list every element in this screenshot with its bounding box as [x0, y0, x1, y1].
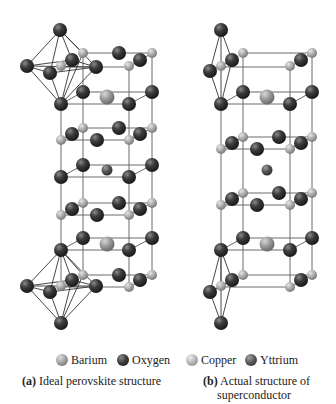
crystal-structure-diagram — [0, 0, 336, 345]
legend-item-barium: Barium — [56, 352, 107, 368]
caption-b: (b) Actual structure of superconductor — [203, 374, 310, 402]
legend-label-yttrium: Yttrium — [260, 353, 298, 368]
caption-a: (a) Ideal perovskite structure — [22, 374, 161, 388]
structure-a-ideal-perovskite — [20, 23, 159, 330]
legend-label-oxygen: Oxygen — [132, 353, 170, 368]
barium-sphere-icon — [56, 354, 68, 366]
legend-item-copper: Copper — [186, 352, 236, 368]
caption-a-text: Ideal perovskite structure — [39, 374, 161, 388]
caption-b-line1: Actual structure of — [220, 374, 310, 388]
caption-b-tag: (b) — [203, 374, 218, 388]
legend-item-oxygen: Oxygen — [117, 352, 170, 368]
structure-b-atoms — [203, 23, 319, 330]
caption-a-tag: (a) — [22, 374, 36, 388]
legend-item-yttrium: Yttrium — [245, 352, 298, 368]
oxygen-sphere-icon — [117, 354, 129, 366]
caption-b-line2: superconductor — [203, 388, 310, 402]
legend-label-copper: Copper — [201, 353, 236, 368]
yttrium-sphere-icon — [245, 354, 257, 366]
copper-sphere-icon — [186, 354, 198, 366]
structure-b-superconductor — [203, 23, 319, 330]
legend-label-barium: Barium — [71, 353, 107, 368]
atom-legend: Barium Oxygen Copper Yttrium — [0, 352, 336, 368]
